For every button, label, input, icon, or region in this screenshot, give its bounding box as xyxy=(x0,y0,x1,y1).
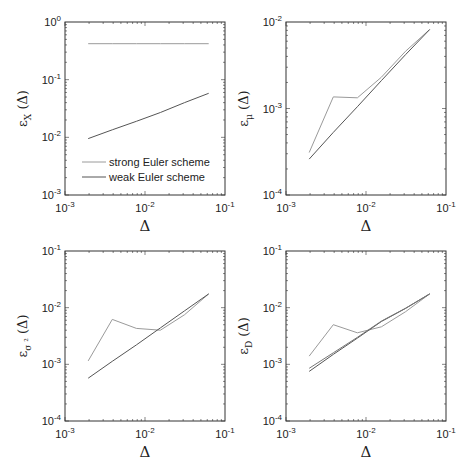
x-tick-label: 10-1 xyxy=(215,426,235,440)
y-axis-label: εσ ² (Δ) xyxy=(15,314,33,357)
legend-label: strong Euler scheme xyxy=(109,156,210,168)
x-tick-label: 10-2 xyxy=(356,426,376,440)
x-tick-label: 10-3 xyxy=(276,426,296,440)
y-tick-label: 10-3 xyxy=(42,356,62,370)
y-tick-label: 10-4 xyxy=(42,413,62,427)
x-tick-label: 10-3 xyxy=(55,426,75,440)
legend-label: weak Euler scheme xyxy=(108,171,205,183)
y-tick-label: 10-1 xyxy=(263,243,283,257)
y-axis-label: εX (Δ) xyxy=(15,90,33,127)
series-line xyxy=(309,294,430,368)
series-line xyxy=(88,93,209,138)
panel-bottom-right: 10-310-210-110-410-310-210-1ΔεD (Δ) xyxy=(236,243,456,461)
axes-frame xyxy=(286,22,446,195)
panel-top-left: 10-310-210-110-310-210-1100ΔεX (Δ)strong… xyxy=(15,14,235,235)
y-tick-label: 10-1 xyxy=(42,243,62,257)
y-axis-label: εD (Δ) xyxy=(236,317,254,355)
axes-frame xyxy=(65,251,225,421)
panel-top-right: 10-310-210-110-410-310-2Δεμ (Δ) xyxy=(236,14,456,235)
y-tick-label: 10-1 xyxy=(42,72,62,86)
y-tick-label: 10-2 xyxy=(263,14,283,28)
x-tick-label: 10-1 xyxy=(436,426,456,440)
x-tick-label: 10-3 xyxy=(55,200,75,214)
series-line xyxy=(309,30,430,160)
y-tick-label: 10-3 xyxy=(42,187,62,201)
y-tick-label: 10-2 xyxy=(263,300,283,314)
x-tick-label: 10-1 xyxy=(436,200,456,214)
legend: strong Euler schemeweak Euler scheme xyxy=(82,156,210,183)
x-tick-label: 10-2 xyxy=(135,426,155,440)
y-tick-label: 10-3 xyxy=(263,356,283,370)
axes-frame xyxy=(286,251,446,421)
y-tick-label: 10-4 xyxy=(263,187,283,201)
x-tick-label: 10-1 xyxy=(215,200,235,214)
x-axis-label: Δ xyxy=(361,217,372,235)
series-line xyxy=(88,294,209,361)
series-line xyxy=(309,294,430,356)
y-tick-label: 10-2 xyxy=(42,300,62,314)
x-axis-label: Δ xyxy=(361,443,372,461)
figure: 10-310-210-110-310-210-1100ΔεX (Δ)strong… xyxy=(0,0,473,475)
y-tick-label: 100 xyxy=(44,14,61,28)
x-tick-label: 10-3 xyxy=(276,200,296,214)
x-tick-label: 10-2 xyxy=(356,200,376,214)
axes-frame xyxy=(65,22,225,195)
panel-bottom-left: 10-310-210-110-410-310-210-1Δεσ ² (Δ) xyxy=(15,243,235,461)
x-axis-label: Δ xyxy=(140,443,151,461)
y-tick-label: 10-4 xyxy=(263,413,283,427)
x-tick-label: 10-2 xyxy=(135,200,155,214)
y-axis-label: εμ (Δ) xyxy=(236,90,254,126)
x-axis-label: Δ xyxy=(140,217,151,235)
y-tick-label: 10-2 xyxy=(42,129,62,143)
series-line xyxy=(88,294,209,378)
y-tick-label: 10-3 xyxy=(263,101,283,115)
